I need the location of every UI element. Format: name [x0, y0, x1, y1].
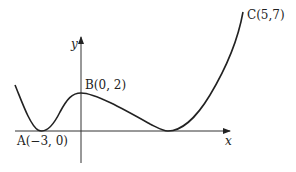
x-axis-label: x [225, 135, 232, 147]
y-axis-label: y [71, 38, 78, 50]
function-curve [15, 12, 243, 131]
point-b-label: B(0, 2) [85, 79, 126, 91]
point-a-label: A(−3, 0) [17, 135, 68, 147]
point-c-label: C(5,7) [247, 9, 285, 21]
